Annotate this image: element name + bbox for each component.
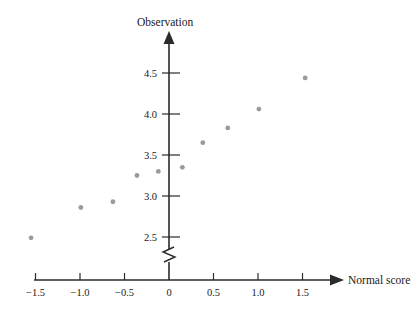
data-point (256, 107, 261, 112)
x-tick-label: 1.5 (296, 287, 309, 298)
x-tick-label: −1.5 (26, 287, 45, 298)
data-point (303, 76, 308, 81)
plot-canvas: −1.5 −1.0 −0.5 0 0.5 1.0 1.5 2.5 3.0 3.5… (0, 0, 419, 320)
y-axis-tick-labels: 2.5 3.0 3.5 4.0 4.5 (144, 68, 157, 243)
data-point (135, 173, 140, 178)
data-point (111, 199, 116, 204)
x-tick-label: 0.5 (207, 287, 220, 298)
x-axis-title: Normal score (348, 274, 410, 286)
x-axis-tick-labels: −1.5 −1.0 −0.5 0 0.5 1.0 1.5 (26, 287, 309, 298)
x-tick-label: 0 (166, 287, 171, 298)
data-point (78, 205, 83, 210)
data-point (200, 140, 205, 145)
data-point (29, 235, 34, 240)
y-tick-label: 4.5 (144, 68, 157, 79)
y-axis-title: Observation (137, 16, 193, 28)
data-point (156, 169, 161, 174)
y-tick-label: 3.0 (144, 191, 157, 202)
x-tick-label: 1.0 (251, 287, 264, 298)
y-axis-ticks (162, 73, 180, 237)
normal-probability-plot: −1.5 −1.0 −0.5 0 0.5 1.0 1.5 2.5 3.0 3.5… (0, 0, 419, 320)
y-axis-arrow-icon (164, 31, 175, 44)
x-tick-label: −1.0 (70, 287, 89, 298)
y-tick-label: 3.5 (144, 150, 157, 161)
data-point (225, 126, 230, 131)
data-point (180, 165, 185, 170)
x-axis-arrow-icon (330, 275, 344, 286)
x-tick-label: −0.5 (115, 287, 134, 298)
y-tick-label: 2.5 (144, 232, 157, 243)
y-axis-break-icon (163, 247, 175, 262)
y-tick-label: 4.0 (144, 109, 157, 120)
data-point-layer (29, 76, 308, 241)
